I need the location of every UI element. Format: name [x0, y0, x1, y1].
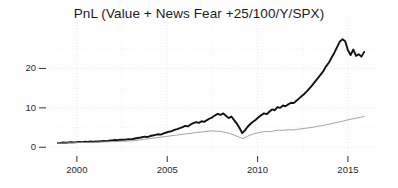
grid-lines	[51, 19, 380, 154]
y-axis-tick-label: 20	[0, 62, 36, 73]
plot-area	[0, 0, 398, 188]
y-axis-tick-label: 0	[0, 141, 36, 152]
x-axis-tick-label: 2010	[228, 164, 288, 175]
x-axis-tick-label: 2015	[318, 164, 378, 175]
x-axis-tick-label: 2000	[47, 164, 107, 175]
series-line-1	[58, 117, 364, 144]
x-axis-tick-label: 2005	[137, 164, 197, 175]
axis-tick-marks	[39, 68, 348, 162]
chart-figure: PnL (Value + News Fear +25/100/Y/SPX) 01…	[0, 0, 398, 188]
y-axis-tick-label: 10	[0, 102, 36, 113]
